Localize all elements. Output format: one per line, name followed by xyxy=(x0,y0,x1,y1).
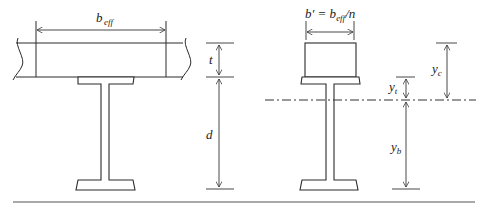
left-composite-section: b eff t d xyxy=(13,10,234,190)
beff-subscript: eff xyxy=(104,17,114,27)
composite-beam-diagram: b eff t d b′ = beff/n xyxy=(0,0,487,206)
break-line-left xyxy=(13,38,23,80)
b-prime-dimension: b′ = beff/n xyxy=(305,6,355,40)
yt-label: yt xyxy=(387,79,398,96)
yb-dimension: yb xyxy=(389,102,420,189)
b-prime-main: b′ = b xyxy=(305,6,337,21)
yt-dimension: yt xyxy=(387,77,415,98)
yb-label: yb xyxy=(389,139,402,156)
t-label: t xyxy=(209,52,213,67)
slab-thickness-dimension: t xyxy=(206,43,234,77)
transformed-slab xyxy=(305,43,356,77)
break-line-right xyxy=(181,38,191,80)
right-transformed-section: b′ = beff/n yt yc yb xyxy=(265,6,476,190)
b-prime-label: b′ = beff/n xyxy=(305,6,355,23)
depth-dimension: d xyxy=(206,79,234,189)
b-prime-tail: /n xyxy=(344,6,355,21)
yb-sub: b xyxy=(397,146,402,156)
d-label: d xyxy=(206,127,213,142)
yc-label: yc xyxy=(430,61,442,78)
yt-sub: t xyxy=(395,86,398,96)
beff-label: b xyxy=(96,10,103,25)
steel-i-beam xyxy=(76,77,135,190)
beff-dimension: b eff xyxy=(37,10,165,30)
yc-dimension: yc xyxy=(430,43,457,98)
yc-sub: c xyxy=(438,68,442,78)
transformed-steel-beam xyxy=(300,77,360,190)
